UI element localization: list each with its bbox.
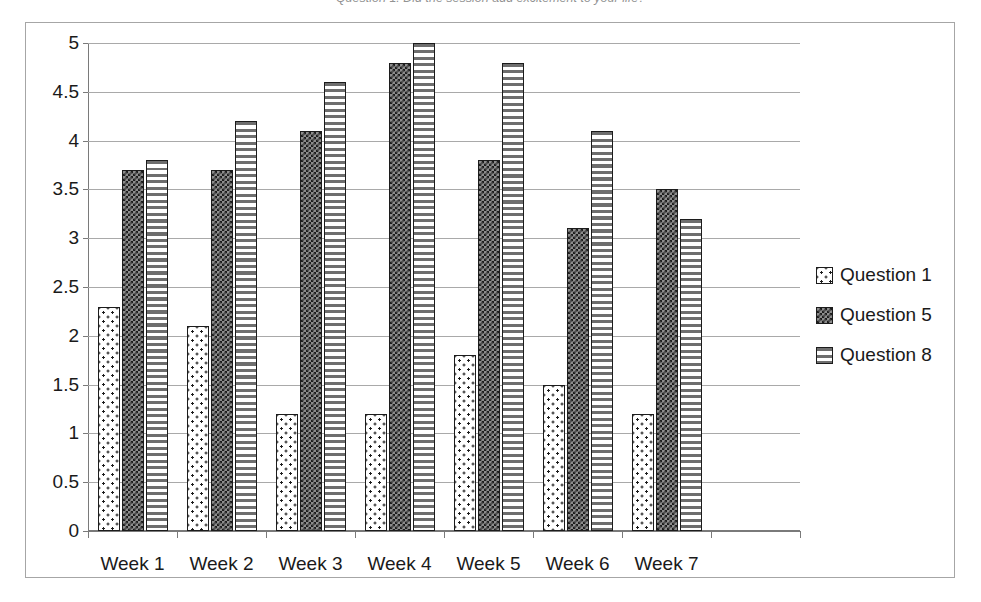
figure-caption: Question 1: Did the session add exciteme…	[0, 0, 981, 5]
y-axis-label: 5	[68, 32, 79, 54]
x-axis-tick	[444, 531, 445, 538]
y-axis-tick	[83, 43, 88, 44]
legend-swatch-icon	[816, 307, 833, 324]
gridline	[88, 189, 800, 190]
chart-frame: 00.511.522.533.544.55Week 1Week 2Week 3W…	[25, 22, 955, 578]
legend-label: Question 8	[840, 344, 932, 366]
y-axis-label: 4	[68, 130, 79, 152]
y-axis-label: 1	[68, 422, 79, 444]
bar	[632, 414, 654, 531]
gridline	[88, 141, 800, 142]
y-axis-tick	[83, 433, 88, 434]
y-axis-label: 3.5	[53, 178, 79, 200]
x-axis-tick	[800, 531, 801, 538]
y-axis-tick	[83, 92, 88, 93]
x-axis-label: Week 6	[545, 553, 609, 575]
legend-swatch-icon	[816, 267, 833, 284]
figure-caption-strip: Question 1: Did the session add exciteme…	[0, 0, 981, 9]
bar	[365, 414, 387, 531]
y-axis-tick	[83, 336, 88, 337]
bar	[211, 170, 233, 531]
bar	[146, 160, 168, 531]
bar	[187, 326, 209, 531]
y-axis-tick	[83, 238, 88, 239]
y-axis-tick	[83, 482, 88, 483]
x-axis-label: Week 3	[278, 553, 342, 575]
x-axis-tick	[533, 531, 534, 538]
bar	[680, 219, 702, 531]
bar	[543, 385, 565, 531]
plot-area: 00.511.522.533.544.55Week 1Week 2Week 3W…	[88, 43, 800, 531]
legend-item[interactable]: Question 5	[816, 295, 956, 335]
bar	[656, 189, 678, 531]
y-axis-tick	[83, 385, 88, 386]
y-axis-label: 0.5	[53, 471, 79, 493]
y-axis-label: 0	[68, 520, 79, 542]
x-axis-label: Week 7	[634, 553, 698, 575]
x-axis-label: Week 4	[367, 553, 431, 575]
x-axis-label: Week 5	[456, 553, 520, 575]
bar	[235, 121, 257, 531]
x-axis-label: Week 2	[189, 553, 253, 575]
bar	[324, 82, 346, 531]
legend-item[interactable]: Question 1	[816, 255, 956, 295]
y-axis-label: 2	[68, 325, 79, 347]
x-axis-tick	[88, 531, 89, 538]
legend-item[interactable]: Question 8	[816, 335, 956, 375]
chart-legend: Question 1Question 5Question 8	[816, 255, 956, 375]
y-axis-tick	[83, 287, 88, 288]
x-axis-tick	[266, 531, 267, 538]
plot-inner: 00.511.522.533.544.55Week 1Week 2Week 3W…	[88, 43, 800, 531]
legend-swatch-icon	[816, 347, 833, 364]
x-axis-tick	[711, 531, 712, 538]
x-axis-tick	[355, 531, 356, 538]
y-axis-label: 2.5	[53, 276, 79, 298]
x-axis-tick	[177, 531, 178, 538]
bar	[276, 414, 298, 531]
bar	[454, 355, 476, 531]
bar	[413, 43, 435, 531]
bar	[98, 307, 120, 531]
y-axis-label: 4.5	[53, 81, 79, 103]
y-axis-tick	[83, 141, 88, 142]
bar	[478, 160, 500, 531]
bar	[567, 228, 589, 531]
bar	[300, 131, 322, 531]
bar	[591, 131, 613, 531]
gridline	[88, 92, 800, 93]
x-axis-label: Week 1	[100, 553, 164, 575]
gridline	[88, 43, 800, 44]
legend-label: Question 5	[840, 304, 932, 326]
bar	[502, 63, 524, 531]
x-axis-tick	[622, 531, 623, 538]
bar	[389, 63, 411, 531]
legend-label: Question 1	[840, 264, 932, 286]
y-axis-label: 1.5	[53, 374, 79, 396]
bar	[122, 170, 144, 531]
y-axis-label: 3	[68, 227, 79, 249]
y-axis-tick	[83, 189, 88, 190]
